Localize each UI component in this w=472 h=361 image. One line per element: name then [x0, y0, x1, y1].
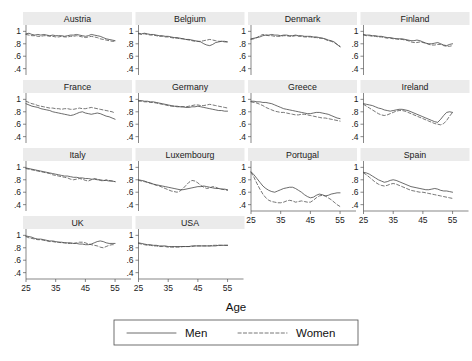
series-women	[139, 101, 228, 108]
panel-title: Portugal	[286, 150, 319, 160]
x-tick-label: 25	[359, 215, 369, 225]
y-tick-label: .4	[351, 200, 358, 210]
chart-canvas: Austria1.8.6.4Belgium1.8.6.4Denmark1.8.6…	[0, 0, 472, 361]
series-men	[251, 172, 340, 198]
y-tick-label: .6	[14, 255, 21, 265]
y-tick-label: 1	[129, 94, 134, 104]
x-tick-label: 45	[306, 215, 316, 225]
y-tick-label: 1	[129, 230, 134, 240]
panel-title: Ireland	[402, 82, 429, 92]
y-tick-label: 1	[241, 162, 246, 172]
x-tick-label: 25	[134, 283, 144, 293]
small-multiples-chart: Austria1.8.6.4Belgium1.8.6.4Denmark1.8.6…	[0, 0, 472, 361]
x-tick-label: 35	[388, 215, 398, 225]
series-women	[26, 34, 115, 41]
x-tick-label: 45	[81, 283, 91, 293]
y-tick-label: .4	[14, 132, 21, 142]
panel-italy: Italy1.8.6.4	[14, 148, 132, 211]
legend: MenWomen	[114, 320, 358, 345]
y-tick-label: .6	[126, 119, 133, 129]
panel-finland: Finland1.8.6.4	[351, 12, 469, 75]
series-women	[26, 101, 115, 113]
y-tick-label: .8	[126, 175, 133, 185]
panel-austria: Austria1.8.6.4	[14, 12, 132, 75]
y-tick-label: .4	[126, 268, 133, 278]
y-tick-label: 1	[354, 162, 359, 172]
series-men	[139, 180, 228, 190]
series-women	[251, 172, 340, 206]
panel-title: Germany	[172, 82, 209, 92]
y-tick-label: 1	[354, 26, 359, 36]
y-tick-label: .6	[239, 119, 246, 129]
panel-ireland: Ireland1.8.6.4	[351, 80, 469, 143]
y-tick-label: .6	[14, 187, 21, 197]
y-tick-label: .8	[14, 243, 21, 253]
legend-label-men: Men	[185, 327, 207, 339]
series-women	[364, 35, 453, 46]
y-tick-label: .4	[351, 132, 358, 142]
panel-title: Finland	[401, 14, 430, 24]
y-tick-label: .8	[14, 175, 21, 185]
series-women	[251, 34, 340, 46]
x-tick-label: 45	[418, 215, 428, 225]
y-tick-label: .8	[351, 107, 358, 117]
y-tick-label: .4	[239, 132, 246, 142]
panel-title: France	[64, 82, 91, 92]
y-tick-label: .8	[239, 39, 246, 49]
panel-germany: Germany1.8.6.4	[126, 80, 244, 143]
y-tick-label: 1	[16, 26, 21, 36]
panel-title: USA	[181, 218, 199, 228]
legend-label-women: Women	[296, 327, 335, 339]
panel-uk: UK1.8.6.425354555	[14, 216, 132, 293]
series-men	[26, 168, 115, 182]
panel-title: Greece	[288, 82, 317, 92]
y-tick-label: .6	[14, 51, 21, 61]
panel-title: Denmark	[285, 14, 321, 24]
y-tick-label: .4	[239, 200, 246, 210]
series-women	[139, 34, 228, 42]
x-tick-label: 55	[110, 283, 120, 293]
series-men	[26, 33, 115, 40]
panel-belgium: Belgium1.8.6.4	[126, 12, 244, 75]
x-tick-label: 25	[21, 283, 31, 293]
y-tick-label: 1	[241, 26, 246, 36]
y-tick-label: .6	[351, 51, 358, 61]
series-women	[139, 180, 228, 192]
y-tick-label: .6	[239, 187, 246, 197]
y-tick-label: .4	[14, 200, 21, 210]
x-tick-label: 35	[276, 215, 286, 225]
x-axis-title: Age	[226, 301, 246, 313]
y-tick-label: .4	[126, 132, 133, 142]
panel-title: Luxembourg	[166, 150, 215, 160]
panel-greece: Greece1.8.6.4	[239, 80, 357, 143]
panel-spain: Spain1.8.6.425354555	[351, 148, 469, 225]
y-tick-label: 1	[16, 230, 21, 240]
x-tick-label: 55	[223, 283, 233, 293]
y-tick-label: .4	[351, 64, 358, 74]
series-women	[139, 243, 228, 247]
y-tick-label: .4	[14, 268, 21, 278]
panel-france: France1.8.6.4	[14, 80, 132, 143]
panel-title: Spain	[404, 150, 427, 160]
y-tick-label: .4	[126, 64, 133, 74]
y-tick-label: 1	[16, 162, 21, 172]
y-tick-label: 1	[129, 26, 134, 36]
y-tick-label: .6	[351, 119, 358, 129]
x-tick-label: 45	[193, 283, 203, 293]
panel-portugal: Portugal1.8.6.425354555	[239, 148, 357, 225]
panel-denmark: Denmark1.8.6.4	[239, 12, 357, 75]
y-tick-label: .6	[126, 187, 133, 197]
y-tick-label: .4	[126, 200, 133, 210]
y-tick-label: .8	[126, 243, 133, 253]
y-tick-label: .6	[126, 51, 133, 61]
series-women	[26, 237, 115, 248]
x-tick-label: 55	[448, 215, 458, 225]
panel-usa: USA1.8.6.425354555	[126, 216, 244, 293]
y-tick-label: .8	[239, 107, 246, 117]
series-men	[251, 101, 340, 118]
y-tick-label: 1	[354, 94, 359, 104]
y-tick-label: 1	[129, 162, 134, 172]
y-tick-label: .6	[14, 119, 21, 129]
y-tick-label: .8	[14, 107, 21, 117]
y-tick-label: .6	[239, 51, 246, 61]
